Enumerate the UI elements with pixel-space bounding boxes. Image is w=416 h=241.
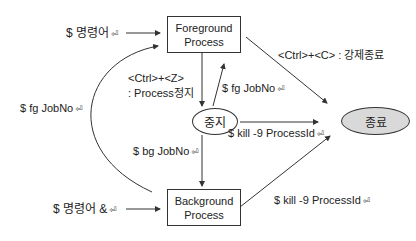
label-background-to-foreground: $ fg JobNo⏎ xyxy=(20,102,83,116)
node-terminated-label: 종료 xyxy=(365,113,387,130)
arrow-background-to-foreground xyxy=(91,46,158,192)
node-background-line1: Background xyxy=(175,194,234,208)
node-foreground-line2: Process xyxy=(184,35,224,49)
node-foreground-process: Foreground Process xyxy=(167,16,241,53)
node-terminated: 종료 xyxy=(341,107,410,135)
return-key-icon: ⏎ xyxy=(109,205,117,215)
node-background-line2: Process xyxy=(184,208,224,222)
label-ctrl-z: <Ctrl>+<Z> : Process정지 xyxy=(128,72,194,100)
label-cmd-to-foreground: $ 명령어⏎ xyxy=(66,27,119,41)
node-background-process: Background Process xyxy=(167,189,241,226)
return-key-icon: ⏎ xyxy=(317,129,325,139)
node-foreground-line1: Foreground xyxy=(176,21,233,35)
return-key-icon: ⏎ xyxy=(111,29,119,39)
label-cmd-to-background: $ 명령어 &⏎ xyxy=(53,203,117,217)
return-key-icon: ⏎ xyxy=(191,147,199,157)
return-key-icon: ⏎ xyxy=(75,104,83,114)
return-key-icon: ⏎ xyxy=(277,84,285,94)
label-ctrl-c: <Ctrl>+<C> : 강제종료 xyxy=(278,49,384,62)
label-stopped-to-terminated: $ kill -9 ProcessId⏎ xyxy=(228,127,324,141)
label-stopped-to-background: $ bg JobNo⏎ xyxy=(133,145,199,159)
label-background-to-terminated: $ kill -9 ProcessId⏎ xyxy=(274,194,370,208)
node-stopped-label: 중지 xyxy=(204,113,226,130)
label-stopped-to-foreground: $ fg JobNo⏎ xyxy=(222,82,285,96)
return-key-icon: ⏎ xyxy=(363,196,371,206)
